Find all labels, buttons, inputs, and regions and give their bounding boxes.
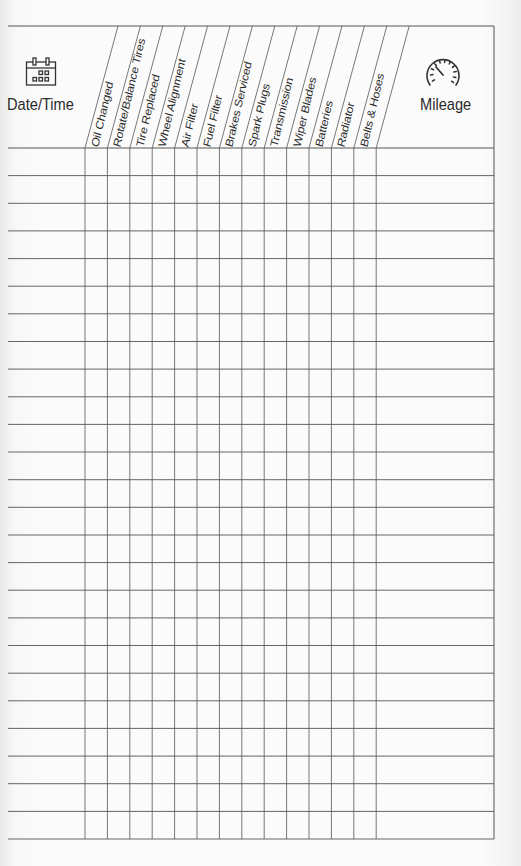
date-time-cell[interactable] — [8, 618, 85, 646]
service-check-cell[interactable] — [309, 397, 331, 425]
service-check-cell[interactable] — [287, 756, 309, 784]
service-check-cell[interactable] — [287, 203, 309, 231]
service-check-cell[interactable] — [197, 728, 219, 756]
service-check-cell[interactable] — [85, 397, 107, 425]
date-time-cell[interactable] — [8, 728, 85, 756]
service-check-cell[interactable] — [85, 756, 107, 784]
service-check-cell[interactable] — [107, 784, 129, 812]
service-check-cell[interactable] — [242, 424, 264, 452]
service-check-cell[interactable] — [130, 811, 152, 839]
service-check-cell[interactable] — [331, 369, 353, 397]
service-check-cell[interactable] — [107, 259, 129, 287]
service-check-cell[interactable] — [175, 618, 197, 646]
service-check-cell[interactable] — [85, 646, 107, 674]
service-check-cell[interactable] — [152, 701, 174, 729]
service-check-cell[interactable] — [242, 231, 264, 259]
service-check-cell[interactable] — [354, 480, 376, 508]
service-check-cell[interactable] — [242, 397, 264, 425]
service-check-cell[interactable] — [354, 286, 376, 314]
mileage-cell[interactable] — [376, 452, 494, 480]
service-check-cell[interactable] — [219, 756, 241, 784]
service-check-cell[interactable] — [309, 148, 331, 176]
service-check-cell[interactable] — [309, 203, 331, 231]
service-check-cell[interactable] — [85, 590, 107, 618]
service-check-cell[interactable] — [264, 369, 286, 397]
service-check-cell[interactable] — [152, 728, 174, 756]
service-check-cell[interactable] — [152, 176, 174, 204]
service-check-cell[interactable] — [152, 590, 174, 618]
service-check-cell[interactable] — [197, 646, 219, 674]
service-check-cell[interactable] — [107, 397, 129, 425]
service-check-cell[interactable] — [175, 673, 197, 701]
service-check-cell[interactable] — [331, 148, 353, 176]
mileage-cell[interactable] — [376, 811, 494, 839]
service-check-cell[interactable] — [152, 286, 174, 314]
service-check-cell[interactable] — [130, 341, 152, 369]
service-check-cell[interactable] — [287, 259, 309, 287]
service-check-cell[interactable] — [264, 563, 286, 591]
service-check-cell[interactable] — [107, 563, 129, 591]
service-check-cell[interactable] — [242, 341, 264, 369]
service-check-cell[interactable] — [309, 341, 331, 369]
service-check-cell[interactable] — [175, 341, 197, 369]
service-check-cell[interactable] — [130, 314, 152, 342]
mileage-cell[interactable] — [376, 259, 494, 287]
service-check-cell[interactable] — [152, 203, 174, 231]
service-check-cell[interactable] — [309, 314, 331, 342]
date-time-cell[interactable] — [8, 701, 85, 729]
service-check-cell[interactable] — [354, 590, 376, 618]
service-check-cell[interactable] — [242, 369, 264, 397]
service-check-cell[interactable] — [219, 452, 241, 480]
service-check-cell[interactable] — [331, 507, 353, 535]
service-check-cell[interactable] — [331, 424, 353, 452]
service-check-cell[interactable] — [130, 590, 152, 618]
service-check-cell[interactable] — [107, 590, 129, 618]
service-check-cell[interactable] — [287, 646, 309, 674]
date-time-cell[interactable] — [8, 535, 85, 563]
service-check-cell[interactable] — [107, 618, 129, 646]
service-check-cell[interactable] — [197, 507, 219, 535]
date-time-cell[interactable] — [8, 811, 85, 839]
service-check-cell[interactable] — [219, 480, 241, 508]
mileage-cell[interactable] — [376, 369, 494, 397]
service-check-cell[interactable] — [287, 701, 309, 729]
service-check-cell[interactable] — [309, 618, 331, 646]
service-check-cell[interactable] — [264, 646, 286, 674]
service-check-cell[interactable] — [331, 452, 353, 480]
service-check-cell[interactable] — [242, 563, 264, 591]
mileage-cell[interactable] — [376, 148, 494, 176]
service-check-cell[interactable] — [130, 203, 152, 231]
service-check-cell[interactable] — [175, 507, 197, 535]
service-check-cell[interactable] — [264, 231, 286, 259]
service-check-cell[interactable] — [130, 756, 152, 784]
date-time-cell[interactable] — [8, 148, 85, 176]
service-check-cell[interactable] — [287, 424, 309, 452]
service-check-cell[interactable] — [309, 811, 331, 839]
service-check-cell[interactable] — [309, 535, 331, 563]
mileage-cell[interactable] — [376, 176, 494, 204]
service-check-cell[interactable] — [354, 646, 376, 674]
service-check-cell[interactable] — [354, 784, 376, 812]
service-check-cell[interactable] — [309, 590, 331, 618]
service-check-cell[interactable] — [331, 646, 353, 674]
date-time-cell[interactable] — [8, 480, 85, 508]
service-check-cell[interactable] — [264, 728, 286, 756]
service-check-cell[interactable] — [309, 424, 331, 452]
service-check-cell[interactable] — [264, 176, 286, 204]
service-check-cell[interactable] — [264, 756, 286, 784]
service-check-cell[interactable] — [219, 314, 241, 342]
service-check-cell[interactable] — [175, 811, 197, 839]
service-check-cell[interactable] — [107, 646, 129, 674]
service-check-cell[interactable] — [130, 369, 152, 397]
service-check-cell[interactable] — [197, 314, 219, 342]
date-time-cell[interactable] — [8, 673, 85, 701]
service-check-cell[interactable] — [107, 148, 129, 176]
service-check-cell[interactable] — [175, 452, 197, 480]
service-check-cell[interactable] — [130, 535, 152, 563]
service-check-cell[interactable] — [219, 535, 241, 563]
mileage-cell[interactable] — [376, 424, 494, 452]
service-check-cell[interactable] — [197, 673, 219, 701]
service-check-cell[interactable] — [85, 231, 107, 259]
service-check-cell[interactable] — [309, 646, 331, 674]
service-check-cell[interactable] — [264, 535, 286, 563]
